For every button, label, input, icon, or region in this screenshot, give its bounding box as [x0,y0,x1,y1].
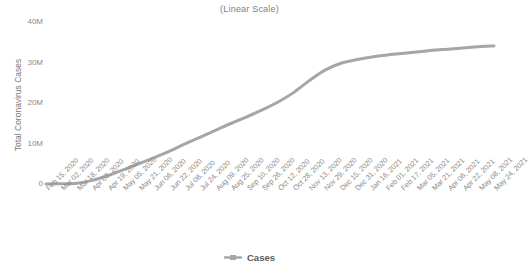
y-tick-label: 40M [3,17,43,26]
chart-title: (Linear Scale) [0,4,499,14]
y-axis-tick-labels: 010M20M30M40M [0,22,43,184]
legend-item-cases: Cases [247,252,275,263]
chart-legend: Cases [0,252,499,263]
y-tick-label: 20M [3,98,43,107]
legend-line-icon [224,253,242,262]
y-tick-label: 30M [3,58,43,67]
x-axis-tick-labels: Feb 15, 2020Mar 02, 2020Mar 18, 2020Apr … [46,186,494,248]
y-tick-label: 10M [3,139,43,148]
y-tick-label: 0 [3,179,43,188]
